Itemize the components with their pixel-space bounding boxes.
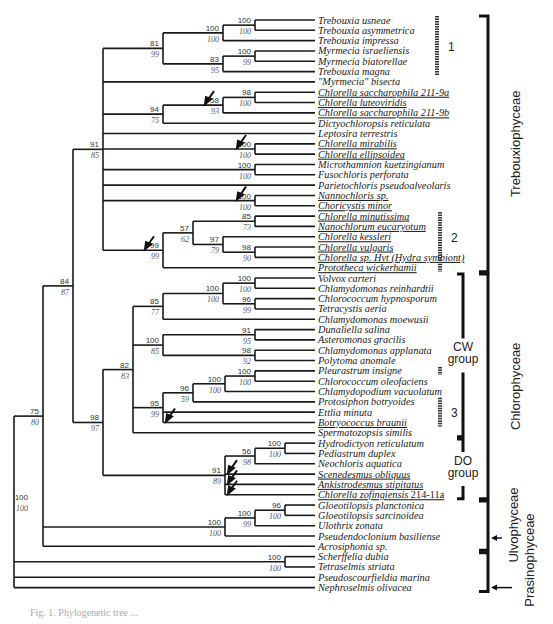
- bootstrap-value-alt: 100: [239, 27, 251, 36]
- bootstrap-value: 85: [242, 212, 251, 221]
- bootstrap-value: 96: [180, 384, 189, 393]
- bootstrap-value-alt: 100: [209, 386, 221, 395]
- bootstrap-value: 100: [238, 509, 252, 518]
- bootstrap-value: 94: [150, 105, 159, 114]
- bootstrap-value: 91: [90, 140, 99, 149]
- bootstrap-value: 83: [210, 55, 219, 64]
- bootstrap-value-alt: 97: [91, 424, 100, 433]
- bootstrap-value: 100: [238, 274, 252, 283]
- bootstrap-value-alt: 85: [151, 347, 159, 356]
- bootstrap-value: 56: [242, 447, 251, 456]
- class-bracket: [479, 553, 488, 592]
- phylogenetic-tree: 1001007580848791858199100100100100839510…: [0, 0, 553, 624]
- bootstrap-value-alt: 95: [243, 337, 251, 346]
- arrow-icon: [166, 408, 175, 421]
- bootstrap-value-alt: 100: [239, 378, 251, 387]
- subgroup-bracket: [457, 274, 463, 338]
- class-bracket: [479, 16, 488, 272]
- bootstrap-value-alt: 59: [181, 395, 189, 404]
- bootstrap-value-alt: 99: [151, 252, 159, 261]
- bootstrap-value-alt: 100: [239, 203, 251, 212]
- bootstrap-value-alt: 99: [151, 50, 159, 59]
- bootstrap-value: 84: [60, 277, 69, 286]
- bootstrap-value-alt: 89: [213, 477, 221, 486]
- bootstrap-value: 100: [206, 284, 220, 293]
- bootstrap-value: 98: [242, 88, 251, 97]
- bootstrap-value: 100: [238, 367, 252, 376]
- subgroup-label: group: [448, 466, 479, 480]
- bootstrap-value-alt: 87: [61, 288, 70, 297]
- bootstrap-value-alt: 83: [121, 372, 129, 381]
- bootstrap-value-alt: 99: [243, 520, 251, 529]
- bootstrap-value-alt: 95: [211, 66, 219, 75]
- class-label: Chlorophyceae: [508, 343, 523, 430]
- class-label: Trebouxiophyceae: [508, 91, 523, 197]
- subgroup-bracket: [457, 439, 463, 452]
- subgroup-bracket: [457, 372, 463, 436]
- bootstrap-value-alt: 100: [269, 564, 281, 573]
- bootstrap-value: 100: [15, 493, 29, 502]
- group-brackets: 123CWgroupDOgroupTrebouxiophyceaeChlorop…: [437, 16, 537, 607]
- bootstrap-value-alt: 79: [211, 246, 219, 255]
- bootstrap-value: 57: [180, 224, 189, 233]
- class-bracket: [479, 274, 488, 499]
- bootstrap-value-alt: 99: [243, 306, 251, 315]
- class-label: Prasinophyceae: [522, 513, 537, 606]
- figure-caption: Fig. 1. Phylogenetic tree ...: [30, 607, 138, 618]
- arrow-head-icon: [491, 535, 497, 541]
- taxon-label: Nephroselmis olivacea: [317, 582, 412, 593]
- bootstrap-value-alt: 85: [91, 151, 99, 160]
- group-number-label: 1: [448, 40, 455, 54]
- group-number-label: 2: [451, 231, 458, 245]
- bootstrap-value-alt: 75: [151, 116, 159, 125]
- bootstrap-value-alt: 100: [239, 99, 251, 108]
- bootstrap-value: 82: [120, 361, 129, 370]
- bootstrap-value: 98: [242, 346, 251, 355]
- bootstrap-value-alt: 93: [211, 107, 219, 116]
- taxon-labels: Trebouxia usneaeTrebouxia asymmetricaTre…: [317, 15, 465, 594]
- bootstrap-value-alt: 73: [243, 223, 251, 232]
- bootstrap-value-alt: 100: [209, 529, 221, 538]
- bootstrap-value: 99: [150, 241, 159, 250]
- bootstrap-value-alt: 100: [207, 35, 219, 44]
- bootstrap-value: 91: [242, 326, 251, 335]
- class-bracket: [479, 501, 488, 550]
- bootstrap-value: 100: [268, 439, 282, 448]
- bootstrap-value: 100: [208, 375, 222, 384]
- bootstrap-value: 81: [150, 39, 159, 48]
- tree-branches: 1001007580848791858199100100100100839510…: [14, 16, 315, 587]
- class-label: Ulvophyceae: [506, 487, 521, 562]
- bootstrap-value-alt: 90: [243, 254, 251, 263]
- bootstrap-value: 97: [210, 235, 219, 244]
- bootstrap-value: 100: [238, 16, 252, 25]
- bootstrap-value: 100: [238, 47, 252, 56]
- subgroup-label: group: [448, 352, 479, 366]
- bootstrap-value-alt: 98: [243, 458, 251, 467]
- subgroup-bracket: [457, 486, 463, 499]
- bootstrap-value: 85: [150, 297, 159, 306]
- bootstrap-value-alt: 100: [239, 172, 251, 181]
- bootstrap-value: 58: [210, 96, 219, 105]
- bootstrap-value: 75: [30, 407, 39, 416]
- bootstrap-value-alt: 100: [239, 151, 251, 160]
- bootstrap-value-alt: 100: [239, 285, 251, 294]
- bootstrap-value-alt: 100: [269, 512, 281, 521]
- bootstrap-value-alt: 92: [243, 357, 251, 366]
- bootstrap-value-alt: 100: [16, 504, 28, 513]
- bootstrap-value-alt: 99: [151, 410, 159, 419]
- bootstrap-value-alt: 62: [181, 235, 189, 244]
- bootstrap-value: 100: [268, 553, 282, 562]
- bootstrap-value-alt: 100: [207, 295, 219, 304]
- bootstrap-value: 100: [146, 336, 160, 345]
- arrow-head-icon: [491, 585, 497, 591]
- bootstrap-value-alt: 100: [269, 450, 281, 459]
- bootstrap-value-alt: 77: [151, 308, 160, 317]
- bootstrap-value: 100: [206, 24, 220, 33]
- bootstrap-value: 96: [272, 501, 281, 510]
- bootstrap-value: 91: [212, 466, 221, 475]
- bootstrap-value: 100: [208, 518, 222, 527]
- bootstrap-value-alt: 80: [31, 418, 39, 427]
- group-number-label: 3: [451, 406, 458, 420]
- bootstrap-value: 96: [242, 295, 251, 304]
- bootstrap-value: 98: [90, 413, 99, 422]
